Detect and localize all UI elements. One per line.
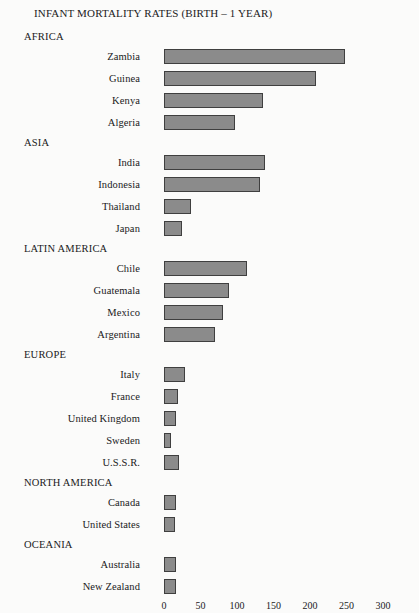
bar-row: Italy: [0, 364, 419, 386]
region-header: EUROPE: [0, 346, 419, 364]
category-label: Chile: [0, 258, 140, 280]
bar-row: Chile: [0, 258, 419, 280]
category-label: Algeria: [0, 112, 140, 134]
x-tick-label: 150: [266, 600, 281, 611]
bar-row: Thailand: [0, 196, 419, 218]
category-label: Guinea: [0, 68, 140, 90]
bar-row: Argentina: [0, 324, 419, 346]
bar-track: [164, 90, 419, 112]
bar: [164, 115, 235, 130]
bar-track: [164, 324, 419, 346]
category-label: India: [0, 152, 140, 174]
x-axis: 050100150200250300: [0, 600, 419, 613]
category-label: U.S.S.R.: [0, 452, 140, 474]
category-label: Sweden: [0, 430, 140, 452]
category-label: Argentina: [0, 324, 140, 346]
bar-row: Kenya: [0, 90, 419, 112]
bar-row: Japan: [0, 218, 419, 240]
bar-row: France: [0, 386, 419, 408]
bar-track: [164, 386, 419, 408]
category-label: Canada: [0, 492, 140, 514]
region-header: AFRICA: [0, 28, 419, 46]
bar-row: United Kingdom: [0, 408, 419, 430]
bar-track: [164, 492, 419, 514]
region-header: OCEANIA: [0, 536, 419, 554]
bar: [164, 221, 182, 236]
region-group-latin-america: LATIN AMERICAChileGuatemalaMexicoArgenti…: [0, 240, 419, 346]
bar-track: [164, 46, 419, 68]
bar-row: Zambia: [0, 46, 419, 68]
bar: [164, 455, 179, 470]
bar-track: [164, 576, 419, 598]
bar-track: [164, 68, 419, 90]
bar: [164, 305, 223, 320]
bar: [164, 199, 191, 214]
bar: [164, 495, 176, 510]
bar: [164, 411, 176, 426]
x-tick-label: 100: [230, 600, 245, 611]
bar-row: India: [0, 152, 419, 174]
bar-track: [164, 554, 419, 576]
bar: [164, 155, 265, 170]
category-label: United States: [0, 514, 140, 536]
bar: [164, 367, 185, 382]
category-label: Japan: [0, 218, 140, 240]
x-tick-label: 0: [162, 600, 167, 611]
x-tick-label: 250: [339, 600, 354, 611]
bar-track: [164, 174, 419, 196]
category-label: Italy: [0, 364, 140, 386]
chart-title: INFANT MORTALITY RATES (BIRTH – 1 YEAR): [34, 7, 272, 19]
bar: [164, 261, 247, 276]
category-label: Kenya: [0, 90, 140, 112]
region-group-africa: AFRICAZambiaGuineaKenyaAlgeria: [0, 28, 419, 134]
region-header: ASIA: [0, 134, 419, 152]
bar-track: [164, 152, 419, 174]
bar: [164, 327, 215, 342]
bar-row: New Zealand: [0, 576, 419, 598]
bar-row: Guinea: [0, 68, 419, 90]
bar: [164, 177, 260, 192]
bar-row: Guatemala: [0, 280, 419, 302]
region-group-oceania: OCEANIAAustraliaNew Zealand: [0, 536, 419, 598]
category-label: Indonesia: [0, 174, 140, 196]
bar: [164, 93, 263, 108]
category-label: Mexico: [0, 302, 140, 324]
bar: [164, 579, 176, 594]
bar-track: [164, 430, 419, 452]
bar-track: [164, 258, 419, 280]
x-tick-label: 300: [376, 600, 391, 611]
bar-row: United States: [0, 514, 419, 536]
bar-row: Indonesia: [0, 174, 419, 196]
bar-track: [164, 112, 419, 134]
bar: [164, 71, 316, 86]
bar-track: [164, 218, 419, 240]
bar-row: U.S.S.R.: [0, 452, 419, 474]
region-group-north-america: NORTH AMERICACanadaUnited States: [0, 474, 419, 536]
category-label: Thailand: [0, 196, 140, 218]
bar-track: [164, 280, 419, 302]
region-header: NORTH AMERICA: [0, 474, 419, 492]
bar: [164, 517, 175, 532]
bar: [164, 557, 176, 572]
bar-row: Mexico: [0, 302, 419, 324]
bar-track: [164, 514, 419, 536]
bar-row: Algeria: [0, 112, 419, 134]
bar: [164, 433, 171, 448]
category-label: New Zealand: [0, 576, 140, 598]
plot-area: AFRICAZambiaGuineaKenyaAlgeriaASIAIndiaI…: [0, 28, 419, 598]
bar: [164, 283, 229, 298]
bar-track: [164, 364, 419, 386]
bar-track: [164, 196, 419, 218]
bar-track: [164, 452, 419, 474]
category-label: Australia: [0, 554, 140, 576]
bar-row: Australia: [0, 554, 419, 576]
bar: [164, 389, 178, 404]
region-group-asia: ASIAIndiaIndonesiaThailandJapan: [0, 134, 419, 240]
bar-row: Sweden: [0, 430, 419, 452]
bar-track: [164, 302, 419, 324]
category-label: Guatemala: [0, 280, 140, 302]
bar: [164, 49, 345, 64]
category-label: France: [0, 386, 140, 408]
region-header: LATIN AMERICA: [0, 240, 419, 258]
